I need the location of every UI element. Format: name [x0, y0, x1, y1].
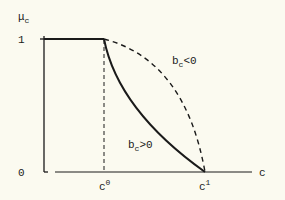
convex-curve-label: bc>0	[128, 139, 153, 153]
x-tick-label-c0: c0	[99, 178, 111, 193]
y-tick-label-1: 1	[18, 34, 25, 46]
diagram-svg: μc 1 0 c0 c1 c bc<0 bc>0	[0, 0, 285, 200]
y-tick-label-0: 0	[18, 167, 25, 179]
y-axis-label: μc	[18, 11, 30, 25]
x-tick-label-c1: c1	[199, 178, 211, 193]
x-axis-label: c	[259, 167, 266, 179]
concave-curve-label: bc<0	[172, 55, 197, 69]
diagram-canvas: μc 1 0 c0 c1 c bc<0 bc>0	[0, 0, 285, 200]
